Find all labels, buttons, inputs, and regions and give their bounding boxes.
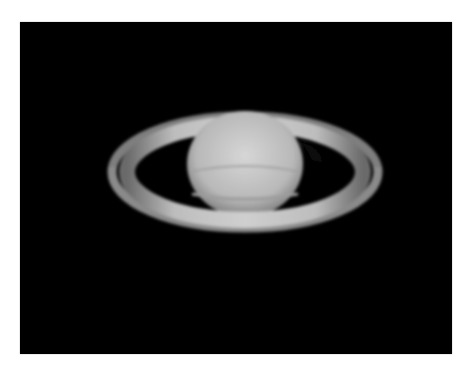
photo-frame [20, 22, 452, 354]
saturn-image [20, 22, 452, 354]
